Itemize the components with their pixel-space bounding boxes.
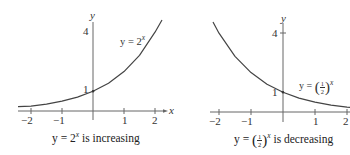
left-curve-2-pow-x [18,20,162,107]
left-x-tick-label--1: −1 [53,115,65,126]
right-y-tick-1: 1 [272,87,278,98]
right-caption-base: y = [234,133,252,145]
left-x-axis-label: x [169,105,174,116]
right-curve-label-exp: x [330,78,333,87]
left-y-axis-label: y [90,10,95,21]
left-curve-label-base: y = 2 [120,36,142,47]
right-x-tick-label-2: 2 [343,116,349,127]
left-caption-base: y = 2 [52,132,76,144]
right-x-tick-label-1: 1 [313,116,319,127]
left-graph [18,20,168,120]
right-caption: y = (12)x is decreasing [234,131,333,149]
left-x-tick-label--2: −2 [21,115,33,126]
left-caption: y = 2x is increasing [52,130,140,144]
right-y-axis-label: y [281,13,286,24]
right-x-tick-label--2: −2 [209,116,221,127]
right-caption-suffix: is decreasing [271,133,334,145]
left-curve-label: y = 2x [120,34,145,47]
right-y-tick-4: 4 [272,28,278,39]
left-curve-label-exp: x [142,33,145,42]
right-curve-label: y = (12)x [299,79,333,95]
left-x-axis-arrow [163,109,168,113]
right-curve-label-base: y = [299,80,315,91]
left-y-tick-1: 1 [83,84,89,95]
right-graph [210,22,350,122]
right-point-0-1 [282,91,284,93]
left-point-0-1 [92,90,94,92]
left-x-tick-label-1: 1 [122,115,128,126]
left-caption-suffix: is increasing [79,132,140,144]
right-x-tick-label--1: −1 [241,116,253,127]
left-x-tick-label-2: 2 [152,115,158,126]
left-y-tick-4: 4 [83,26,89,37]
